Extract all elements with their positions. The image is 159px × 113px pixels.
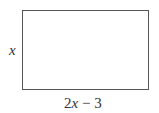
rectangle-shape [22, 10, 149, 90]
width-constant: − 3 [78, 95, 101, 111]
width-label: 2x − 3 [64, 96, 102, 111]
height-label: x [9, 43, 16, 58]
width-coefficient: 2 [64, 95, 72, 111]
